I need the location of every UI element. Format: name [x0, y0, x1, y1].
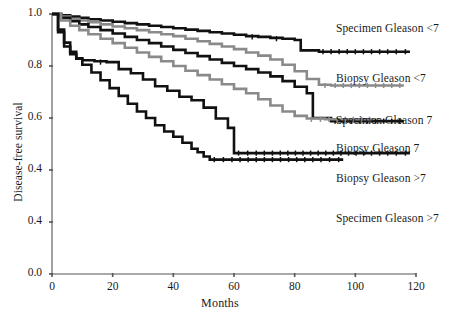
y-tick-label: 1.0: [10, 6, 42, 18]
y-tick-label: 0.8: [10, 58, 42, 70]
survival-chart-figure: 1.00.80.60.40.40.0 020406080100120 Speci…: [0, 0, 452, 324]
x-tick-label: 80: [275, 280, 315, 292]
series-label: Specimen Gleason <7: [336, 22, 439, 34]
series-label: Biopsy Gleason <7: [336, 72, 426, 84]
series-label: Specimen Gleason >7: [336, 212, 439, 224]
x-tick-label: 100: [335, 280, 375, 292]
kaplan-meier-plot: [0, 0, 452, 324]
y-tick-label: 0.0: [10, 266, 42, 278]
x-tick-label: 60: [214, 280, 254, 292]
series-label: Biopsy Gleason >7: [336, 172, 426, 184]
y-axis-title: Disease-free survival: [12, 72, 24, 232]
series-label: Biopsy Gleason 7: [336, 142, 419, 154]
x-axis-title: Months: [150, 296, 290, 311]
series-label: Specimen Gleason 7: [336, 114, 432, 126]
x-tick-label: 0: [32, 280, 72, 292]
x-tick-label: 120: [396, 280, 436, 292]
survival-curves: [52, 14, 410, 162]
x-tick-label: 40: [153, 280, 193, 292]
x-tick-label: 20: [93, 280, 133, 292]
